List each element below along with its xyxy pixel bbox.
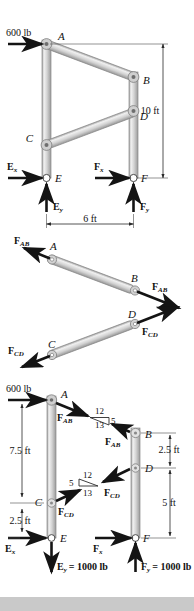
joint-label-e-bot: E bbox=[59, 532, 67, 544]
member-ace bbox=[42, 40, 51, 178]
pin-e bbox=[48, 535, 55, 542]
slope-label-upper-rise: 12 bbox=[95, 406, 104, 416]
dimension-label-7p5ft: 7.5 ft bbox=[9, 445, 30, 456]
joint-label-a-bot: A bbox=[60, 388, 68, 400]
slope-triangle-upper: 12 13 5 bbox=[90, 406, 116, 430]
reaction-label-ey-bot: Ey= 1000 lb bbox=[57, 561, 108, 574]
force-arrow-fcd-c bbox=[22, 356, 50, 367]
dimension-label-5ft: 5 ft bbox=[162, 497, 176, 508]
member-ab bbox=[45, 40, 137, 81]
joint-label-d-fbd: D bbox=[127, 308, 136, 320]
force-label-fcd-at-c: FCD bbox=[58, 506, 74, 519]
dimension-right-stack: 2.5 ft 5 ft bbox=[141, 433, 180, 538]
fbd-member-cd: FCD FCD C D bbox=[8, 307, 178, 367]
reaction-label-fx: Fx bbox=[94, 161, 104, 174]
slope-label-lower-hyp: 13 bbox=[83, 488, 93, 498]
force-label-fcd-c: FCD bbox=[8, 345, 24, 358]
force-arrow-fcd-at-c bbox=[56, 490, 80, 501]
dimension-left-stack: 7.5 ft 2.5 ft bbox=[8, 404, 44, 538]
member-bdf bbox=[129, 72, 138, 178]
joint-label-c: C bbox=[26, 132, 34, 144]
member-cd bbox=[45, 108, 137, 149]
joint-label-a-fbd: A bbox=[49, 240, 57, 252]
fbd-member-ace bbox=[47, 396, 56, 538]
figure-frame-with-supports: 600 lb A B D C E F 10 ft Ex Fx Ey Fy 6 f… bbox=[0, 0, 194, 232]
dimension-6ft: 6 ft bbox=[47, 213, 134, 228]
joint-label-c-fbd: C bbox=[48, 338, 56, 350]
joint-label-b-fbd: B bbox=[131, 272, 138, 284]
load-label-600lb: 600 lb bbox=[6, 27, 31, 38]
reaction-label-fx-bot: Fx bbox=[93, 543, 103, 556]
dimension-label-6ft: 6 ft bbox=[83, 213, 97, 224]
fbd-member-bdf bbox=[131, 428, 140, 538]
slope-label-lower-rise: 12 bbox=[83, 470, 92, 480]
pin-f bbox=[132, 535, 139, 542]
joint-label-b: B bbox=[143, 74, 150, 86]
force-arrow-fab-a bbox=[24, 248, 50, 259]
footer-band bbox=[0, 597, 194, 611]
fbd-member-ab: FAB FAB A B bbox=[14, 235, 179, 308]
force-label-fcd-d: FCD bbox=[142, 326, 158, 339]
joint-label-e: E bbox=[54, 172, 62, 184]
dimension-label-10ft: 10 ft bbox=[141, 105, 160, 116]
force-label-fab-a: FAB bbox=[14, 235, 30, 248]
dimension-label-2p5ft-right: 2.5 ft bbox=[158, 444, 179, 455]
force-label-fcd-at-d: FCD bbox=[104, 487, 120, 500]
load-label-600lb-fbd: 600 lb bbox=[6, 383, 31, 394]
joint-label-c-bot: C bbox=[35, 496, 43, 508]
force-label-fab-at-b: FAB bbox=[105, 436, 121, 449]
joint-label-a: A bbox=[57, 30, 65, 42]
reaction-label-fy-bot: Fy= 1000 lb bbox=[141, 561, 192, 574]
joint-label-b-bot: B bbox=[145, 428, 152, 440]
slope-label-upper-hyp: 13 bbox=[95, 420, 105, 430]
force-arrow-fab-at-b bbox=[112, 424, 130, 432]
reaction-label-ey: Ey bbox=[53, 201, 64, 214]
force-arrow-fcd-at-d bbox=[103, 469, 130, 482]
figure-two-force-members: FAB FAB A B FCD FCD C D bbox=[0, 232, 194, 382]
force-label-fab-at-a: FAB bbox=[57, 412, 73, 425]
force-arrow-fcd-d bbox=[137, 307, 178, 323]
force-label-fab-b: FAB bbox=[152, 281, 168, 294]
slope-label-lower-run: 5 bbox=[69, 478, 74, 488]
figure-frame-fbd-slopes: 600 lb A B D C E F FAB 12 13 5 FAB FCD 1… bbox=[0, 382, 194, 611]
reaction-label-fy: Fy bbox=[140, 201, 150, 214]
reaction-label-ex: Ex bbox=[7, 161, 18, 174]
reaction-label-ex-bot: Ex bbox=[5, 543, 16, 556]
dimension-label-2p5ft-left: 2.5 ft bbox=[9, 515, 30, 526]
